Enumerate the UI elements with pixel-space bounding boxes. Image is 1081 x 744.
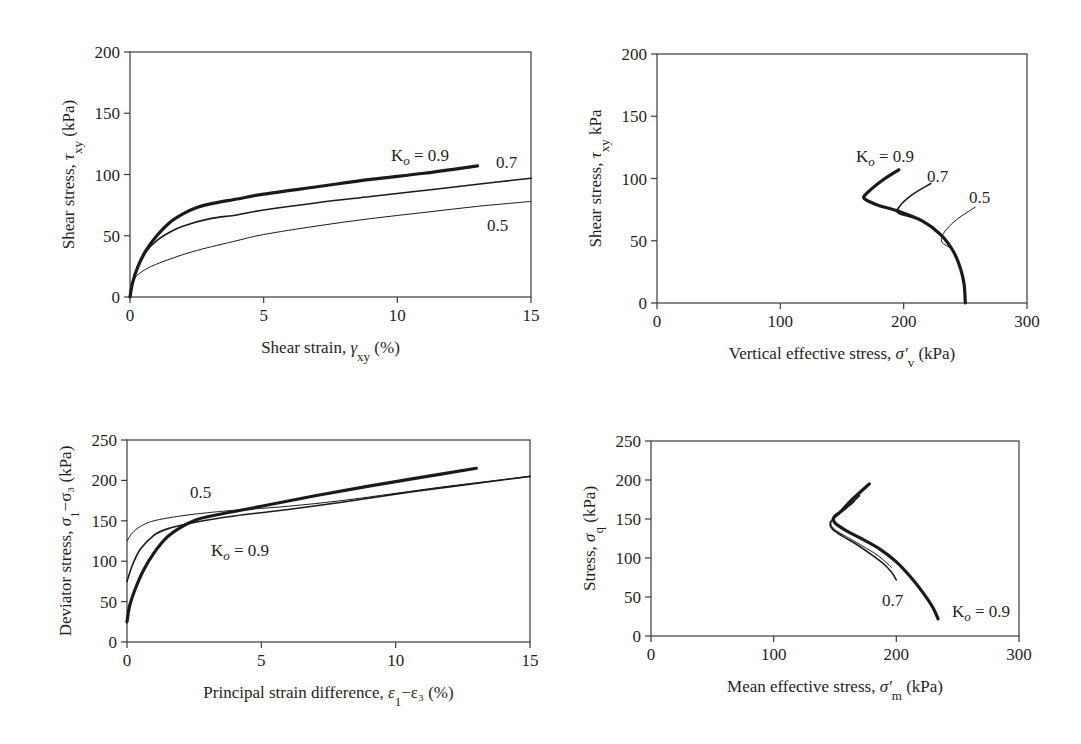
x-tick-label: 0 bbox=[126, 306, 135, 325]
y-tick-label: 150 bbox=[616, 510, 642, 529]
y-tick-label: 0 bbox=[112, 288, 121, 307]
series-line-05 bbox=[941, 207, 975, 303]
series-line-ko09 bbox=[130, 166, 478, 297]
x-tick-label: 300 bbox=[1006, 645, 1032, 664]
series-line-07 bbox=[830, 496, 896, 580]
y-tick-label: 50 bbox=[103, 227, 120, 246]
x-axis-label: Vertical effective stress, σ′v (kPa) bbox=[729, 344, 955, 370]
series-annotation: Ko = 0.9 bbox=[856, 147, 914, 169]
x-tick-label: 15 bbox=[523, 306, 540, 325]
y-tick-label: 200 bbox=[95, 43, 121, 62]
panel-top-left: 051015050100150200Ko = 0.90.70.5Shear st… bbox=[59, 43, 540, 364]
y-tick-label: 150 bbox=[95, 104, 121, 123]
y-tick-label: 50 bbox=[624, 588, 641, 607]
y-tick-label: 0 bbox=[109, 633, 118, 652]
y-tick-label: 50 bbox=[100, 593, 117, 612]
y-axis-label: Shear stress, τxy kPa bbox=[586, 109, 612, 248]
y-tick-label: 200 bbox=[622, 45, 648, 64]
plot-frame bbox=[657, 54, 1027, 303]
x-tick-label: 200 bbox=[884, 645, 910, 664]
y-tick-label: 200 bbox=[92, 471, 118, 490]
figure-canvas: 051015050100150200Ko = 0.90.70.5Shear st… bbox=[0, 0, 1081, 744]
y-tick-label: 100 bbox=[92, 552, 118, 571]
x-tick-label: 10 bbox=[389, 306, 406, 325]
y-tick-label: 150 bbox=[622, 107, 648, 126]
series-line-07 bbox=[130, 178, 531, 297]
series-annotation: Ko = 0.9 bbox=[952, 602, 1010, 624]
y-tick-label: 0 bbox=[639, 294, 648, 313]
y-axis-label: Deviator stress, σ1−σ₃ (kPa) bbox=[56, 446, 82, 637]
series-line-05 bbox=[127, 476, 530, 541]
series-annotation: Ko = 0.9 bbox=[391, 146, 449, 168]
x-tick-label: 5 bbox=[257, 651, 266, 670]
x-tick-label: 300 bbox=[1014, 312, 1040, 331]
series-annotation: 0.5 bbox=[190, 483, 211, 502]
panel-bottom-right: 01002003000501001502002500.7Ko = 0.9Mean… bbox=[580, 432, 1032, 703]
y-tick-label: 150 bbox=[92, 512, 118, 531]
y-tick-label: 200 bbox=[616, 471, 642, 490]
y-tick-label: 50 bbox=[630, 232, 647, 251]
y-tick-label: 0 bbox=[633, 627, 642, 646]
series-annotation: 0.5 bbox=[969, 188, 990, 207]
x-tick-label: 0 bbox=[647, 645, 656, 664]
panel-bottom-left: 0510150501001502002500.5Ko = 0.9Principa… bbox=[56, 431, 539, 709]
plot-frame bbox=[130, 52, 531, 297]
y-tick-label: 250 bbox=[616, 432, 642, 451]
x-tick-label: 5 bbox=[259, 306, 268, 325]
series-annotation: Ko = 0.9 bbox=[211, 541, 269, 563]
y-tick-label: 250 bbox=[92, 431, 118, 450]
x-tick-label: 10 bbox=[387, 651, 404, 670]
y-tick-label: 100 bbox=[616, 549, 642, 568]
x-tick-label: 100 bbox=[761, 645, 787, 664]
x-tick-label: 0 bbox=[653, 312, 662, 331]
y-tick-label: 100 bbox=[95, 166, 121, 185]
series-line-05 bbox=[130, 201, 531, 297]
x-axis-label: Principal strain difference, ε1−ε₃ (%) bbox=[203, 683, 453, 709]
series-annotation: 0.7 bbox=[882, 591, 904, 610]
y-axis-label: Shear stress, τxy (kPa) bbox=[59, 100, 85, 249]
panel-top-right: 0100200300050100150200Ko = 0.90.70.5Vert… bbox=[586, 45, 1040, 370]
x-tick-label: 0 bbox=[123, 651, 132, 670]
series-annotation: 0.7 bbox=[927, 167, 949, 186]
series-annotation: 0.5 bbox=[487, 216, 508, 235]
x-tick-label: 100 bbox=[768, 312, 794, 331]
x-axis-label: Shear strain, γxy (%) bbox=[261, 338, 400, 364]
x-tick-label: 200 bbox=[891, 312, 917, 331]
x-axis-label: Mean effective stress, σ′m (kPa) bbox=[727, 677, 943, 703]
series-line-ko09 bbox=[863, 170, 965, 303]
y-tick-label: 100 bbox=[622, 170, 648, 189]
y-axis-label: Stress, σq (kPa) bbox=[580, 486, 606, 591]
series-line-07 bbox=[897, 183, 965, 303]
x-tick-label: 15 bbox=[522, 651, 539, 670]
series-line-ko09 bbox=[127, 468, 476, 622]
series-annotation: 0.7 bbox=[496, 153, 518, 172]
